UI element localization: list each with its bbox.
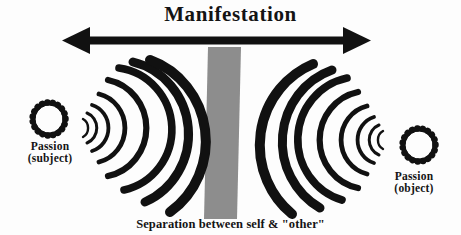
node-label-right-line2: (object) — [366, 182, 461, 194]
scalloped-ring-icon-left — [33, 103, 66, 136]
node-label-left-line2: (subject) — [2, 152, 98, 164]
radiating-arcs-right — [260, 64, 383, 214]
node-label-left: Passion (subject) — [2, 140, 98, 165]
diagram-artwork — [0, 0, 461, 235]
radiating-arcs-left — [83, 60, 206, 212]
page-title: Manifestation — [0, 3, 461, 26]
node-label-left-line1: Passion — [31, 140, 69, 152]
diagram-canvas: Manifestation Passion (subject) Passion … — [0, 0, 461, 235]
diagram-caption: Separation between self & "other" — [0, 218, 461, 232]
scalloped-ring-icon-right — [403, 129, 436, 162]
node-label-right-line1: Passion — [395, 170, 433, 182]
node-label-right: Passion (object) — [366, 170, 461, 195]
